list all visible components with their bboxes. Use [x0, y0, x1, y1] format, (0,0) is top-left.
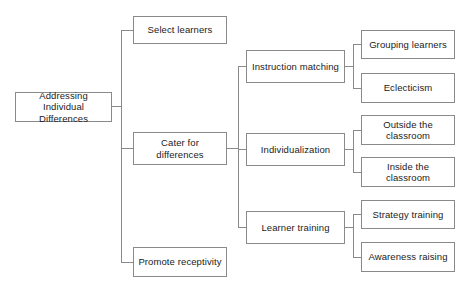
connector-individualization-outside — [353, 130, 361, 131]
connector-trunk-individualization — [238, 149, 246, 150]
node-grouping-learners[interactable]: Grouping learners — [361, 30, 455, 59]
connector-trunk-level2 — [121, 30, 122, 263]
connector-root-stub — [112, 106, 121, 107]
connector-trunk-instruction-matching — [238, 66, 246, 67]
connector-instruction-eclecticism — [353, 88, 361, 89]
node-eclecticism[interactable]: Eclecticism — [361, 73, 455, 103]
connector-trunk-select-learners — [121, 30, 133, 31]
connector-learner-training-stub — [345, 227, 353, 228]
node-individualization[interactable]: Individualization — [246, 133, 345, 166]
connector-trunk-individualization-children — [353, 130, 354, 172]
connector-learner-awareness-raising — [353, 257, 361, 258]
node-outside-the-classroom[interactable]: Outside the classroom — [361, 115, 455, 145]
connector-trunk-learner-training — [238, 227, 246, 228]
connector-trunk-level3 — [238, 66, 239, 228]
connector-individualization-stub — [345, 149, 353, 150]
connector-individualization-inside — [353, 172, 361, 173]
node-addressing-individual-differences[interactable]: Addressing Individual Differences — [15, 92, 112, 122]
connector-instruction-matching-stub — [345, 66, 353, 67]
connector-trunk-instruction-children — [353, 44, 354, 88]
connector-trunk-cater-for-differences — [121, 148, 133, 149]
node-strategy-training[interactable]: Strategy training — [361, 200, 455, 229]
node-inside-the-classroom[interactable]: Inside the classroom — [361, 157, 455, 187]
connector-cater-stub — [227, 148, 238, 149]
node-awareness-raising[interactable]: Awareness raising — [361, 242, 455, 272]
connector-instruction-grouping-learners — [353, 44, 361, 45]
node-promote-receptivity[interactable]: Promote receptivity — [133, 247, 227, 277]
node-learner-training[interactable]: Learner training — [246, 211, 345, 244]
node-select-learners[interactable]: Select learners — [133, 16, 227, 44]
connector-learner-strategy-training — [353, 214, 361, 215]
connector-trunk-learner-training-children — [353, 214, 354, 257]
diagram-canvas: Addressing Individual Differences Select… — [0, 0, 472, 290]
node-cater-for-differences[interactable]: Cater for differences — [133, 132, 227, 165]
node-instruction-matching[interactable]: Instruction matching — [246, 50, 345, 83]
connector-trunk-promote-receptivity — [121, 262, 133, 263]
